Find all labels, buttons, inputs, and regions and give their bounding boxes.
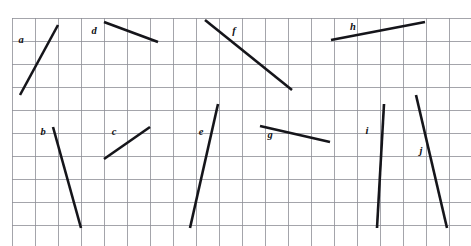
segment-label-g: g [266,129,272,140]
segment-label-a: a [18,34,23,45]
segment-label-d: d [91,25,97,36]
grid-figure-svg: abcdefghij [0,0,471,246]
segment-label-h: h [350,21,356,32]
segment-label-b: b [40,126,45,137]
segment-line-e [190,104,218,228]
grid-lines [12,18,471,246]
figure-container: abcdefghij [0,0,471,246]
segment-labels: abcdefghij [18,21,422,156]
segment-label-j: j [418,145,423,156]
segment-line-a [20,25,58,95]
segment-line-b [53,127,81,228]
segment-line-h [331,22,425,40]
segment-label-f: f [232,25,237,36]
segment-label-e: e [199,126,204,137]
segment-line-j [416,95,447,228]
segment-label-i: i [366,125,369,136]
segment-line-f [205,20,292,90]
segment-label-c: c [112,126,117,137]
segment-line-i [377,104,384,228]
segment-lines [20,20,447,228]
